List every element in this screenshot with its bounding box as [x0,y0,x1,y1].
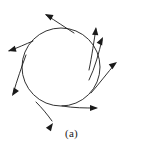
figure-panel: (a) [0,0,143,148]
main-circle [22,28,100,106]
arrow-left-lower-head [12,88,19,96]
figure-vector-canvas [0,0,143,148]
arrow-left-lower-shaft [13,55,26,94]
arrow-right-upper-head [97,37,103,46]
arrow-right-diagonal [91,62,117,93]
arrow-bottom-right-head [90,105,98,111]
arrow-right-diagonal-shaft [91,64,115,93]
arrow-bottom-left-shaft [36,102,52,121]
arrow-left-upper-head [8,46,17,52]
arrow-top-right [89,27,98,70]
arrow-top-right-head [92,27,98,35]
arrow-top-left-head [45,14,54,20]
arrow-left-lower [12,55,26,96]
figure-caption: (a) [0,127,143,139]
arrow-left-upper [8,41,33,52]
arrow-right-diagonal-head [109,62,117,69]
